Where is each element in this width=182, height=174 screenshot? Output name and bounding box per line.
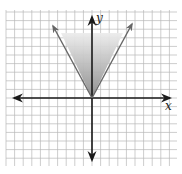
coordinate-plane: y x bbox=[0, 0, 182, 174]
x-axis-label: x bbox=[165, 99, 172, 113]
y-axis-label: y bbox=[95, 11, 103, 25]
